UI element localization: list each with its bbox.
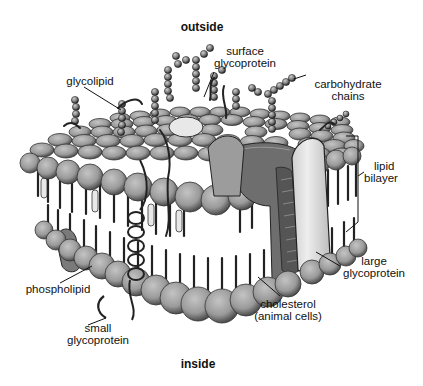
cell-membrane-diagram: outside surface glycoprotein glycolipid … <box>0 0 423 386</box>
label-line: glycoprotein <box>58 334 138 346</box>
label-line: large <box>334 255 414 267</box>
label-cholesterol: cholesterol (animal cells) <box>248 298 328 322</box>
label-surface-glycoprotein: surface glycoprotein <box>200 45 290 69</box>
label-phospholipid: phospholipid <box>20 283 96 295</box>
label-line: (animal cells) <box>248 310 328 322</box>
label-line: carbohydrate <box>306 78 390 90</box>
label-line: chains <box>306 90 390 102</box>
label-line: glycoprotein <box>200 57 290 69</box>
label-line: glycoprotein <box>334 267 414 279</box>
label-inside: inside <box>170 358 226 370</box>
surface-glycoprotein-body <box>169 117 203 137</box>
label-outside: outside <box>170 21 234 33</box>
label-line: surface <box>200 45 290 57</box>
label-glycolipid: glycolipid <box>58 75 122 87</box>
carbohydrate-leader <box>294 75 306 79</box>
small-glycoprotein-tail <box>98 296 106 318</box>
label-carbohydrate-chains: carbohydrate chains <box>306 78 390 102</box>
glycolipid-leader <box>84 87 121 110</box>
label-line: small <box>58 322 138 334</box>
label-small-glycoprotein: small glycoprotein <box>58 322 138 346</box>
large-glycoprotein-body <box>292 138 330 274</box>
label-line: lipid <box>364 160 414 172</box>
label-line: glycolipid <box>58 75 122 87</box>
label-line: bilayer <box>364 172 414 184</box>
label-lipid-bilayer: lipid bilayer <box>364 160 414 184</box>
label-line: cholesterol <box>248 298 328 310</box>
label-large-glycoprotein: large glycoprotein <box>334 255 414 279</box>
label-line: phospholipid <box>20 283 96 295</box>
